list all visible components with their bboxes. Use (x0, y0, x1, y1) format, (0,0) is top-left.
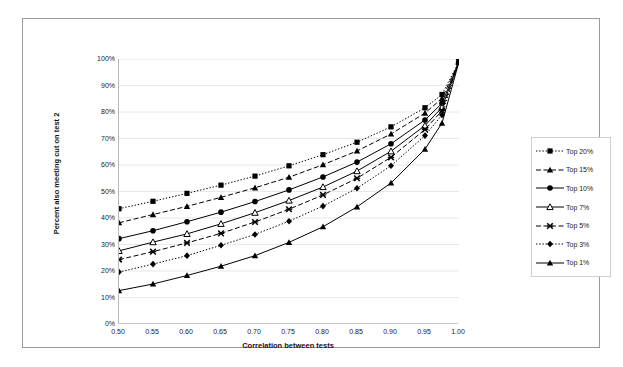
legend-key-icon (535, 163, 565, 177)
marker-triangle (388, 131, 394, 137)
legend-item-label: Top 3% (565, 241, 589, 248)
marker-triangle-filled (354, 204, 360, 210)
marker-circle (354, 159, 360, 165)
legend-item[interactable]: Top 15% (535, 161, 608, 180)
legend-key-icon (535, 200, 565, 214)
legend-item-label: Top 15% (565, 166, 593, 173)
marker-diamond (388, 162, 394, 169)
marker-diamond (150, 261, 156, 268)
marker-diamond (286, 218, 292, 225)
legend-item[interactable]: Top 1% (535, 254, 608, 273)
marker-diamond (252, 231, 258, 238)
x-axis-tick-label: 0.50 (103, 327, 133, 336)
y-axis-tick-label: 40% (81, 214, 115, 222)
marker-circle (218, 209, 224, 215)
y-axis-tick-label: 60% (81, 161, 115, 169)
legend-key-icon (535, 144, 565, 158)
legend-item-label: Top 1% (565, 259, 589, 266)
y-axis-tick-label: 90% (81, 82, 115, 90)
legend-item-label: Top 10% (565, 185, 593, 192)
y-axis-tick-label: 30% (81, 241, 115, 249)
marker-triangle-filled (252, 252, 258, 258)
marker-square (422, 105, 427, 110)
marker-triangle-filled (320, 224, 326, 230)
marker-square (252, 174, 257, 179)
x-axis-tick-labels: 0.500.550.600.650.700.750.800.850.900.95… (118, 327, 458, 339)
x-axis-tick-label: 0.65 (205, 327, 235, 336)
chart-plot-svg (119, 59, 459, 324)
marker-triangle-filled (439, 120, 445, 126)
x-axis-tick-label: 0.85 (341, 327, 371, 336)
marker-circle (184, 219, 190, 225)
marker-triangle-open (388, 148, 394, 154)
series-line (119, 62, 459, 209)
x-axis-tick-label: 0.80 (307, 327, 337, 336)
marker-square (388, 124, 393, 129)
marker-diamond (119, 269, 122, 276)
legend-item-label: Top 7% (565, 204, 589, 211)
legend-key-icon (535, 237, 565, 251)
chart-legend: Top 20%Top 15%Top 10%Top 7%Top 5%Top 3%T… (531, 137, 611, 277)
legend-item[interactable]: Top 10% (535, 179, 608, 198)
marker-circle (388, 141, 394, 147)
legend-item[interactable]: Top 5% (535, 216, 608, 235)
y-axis-tick-label: 50% (81, 188, 115, 196)
marker-circle (150, 228, 156, 234)
x-axis-tick-label: 0.70 (239, 327, 269, 336)
y-axis-tick-label: 100% (81, 55, 115, 63)
x-axis-tick-label: 0.75 (273, 327, 303, 336)
series-top-5 (119, 59, 459, 262)
y-axis-tick-label: 20% (81, 267, 115, 275)
marker-circle (320, 174, 326, 180)
marker-square (286, 163, 291, 168)
plot-area (118, 59, 458, 324)
marker-triangle (286, 174, 292, 180)
legend-item[interactable]: Top 3% (535, 235, 608, 254)
x-axis-tick-label: 0.95 (409, 327, 439, 336)
marker-diamond (547, 241, 553, 248)
marker-circle (252, 199, 258, 205)
marker-diamond (320, 203, 326, 210)
x-axis-tick-label: 0.55 (137, 327, 167, 336)
y-axis-tick-label: 70% (81, 135, 115, 143)
marker-square (184, 191, 189, 196)
marker-square (320, 152, 325, 157)
marker-square (547, 149, 552, 154)
legend-item[interactable]: Top 20% (535, 142, 608, 161)
legend-key-icon (535, 181, 565, 195)
legend-key-icon (535, 219, 565, 233)
marker-triangle (354, 148, 360, 154)
legend-key-icon (535, 256, 565, 270)
marker-triangle-open (286, 197, 292, 203)
x-axis-tick-label: 1.00 (443, 327, 473, 336)
y-axis-title: Percent also meeting cut on test 2 (52, 89, 61, 259)
marker-triangle-open (320, 184, 326, 190)
x-axis-tick-label: 0.90 (375, 327, 405, 336)
marker-circle (286, 187, 292, 193)
marker-triangle (150, 211, 156, 217)
legend-item-label: Top 20% (565, 148, 593, 155)
marker-triangle-open (354, 168, 360, 174)
screenshot-page: Percent also meeting cut on test 2 0%10%… (0, 0, 623, 367)
y-axis-tick-label: 10% (81, 294, 115, 302)
x-axis-tick-label: 0.60 (171, 327, 201, 336)
y-axis-tick-labels: 0%10%20%30%40%50%60%70%80%90%100% (75, 59, 115, 324)
marker-square (119, 206, 122, 211)
marker-circle (119, 236, 122, 242)
marker-triangle-filled (286, 239, 292, 245)
chart-frame: Percent also meeting cut on test 2 0%10%… (22, 18, 600, 348)
x-axis-title: Correlation between tests (118, 341, 458, 350)
marker-diamond (218, 242, 224, 249)
marker-square (218, 183, 223, 188)
legend-item-label: Top 5% (565, 222, 589, 229)
series-line (119, 62, 459, 260)
marker-square (354, 140, 359, 145)
marker-square (150, 199, 155, 204)
marker-diamond (184, 252, 190, 259)
marker-triangle (320, 162, 326, 168)
marker-triangle-filled (422, 146, 428, 152)
marker-diamond (354, 185, 360, 192)
y-axis-tick-label: 80% (81, 108, 115, 116)
marker-circle (547, 186, 553, 192)
legend-item[interactable]: Top 7% (535, 198, 608, 217)
